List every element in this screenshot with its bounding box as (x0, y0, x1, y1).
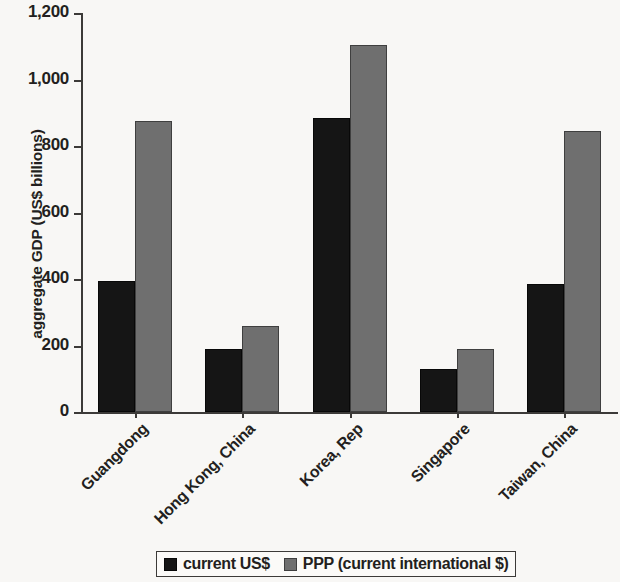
x-axis-tick-mark (242, 412, 244, 418)
y-axis-tick-mark (74, 13, 81, 15)
y-axis-tick-mark (74, 80, 81, 82)
legend-entry-current-usd: current US$ (164, 555, 270, 573)
y-axis-tick-label: 1,200 (5, 2, 69, 22)
y-axis-tick-mark (74, 213, 81, 215)
legend-swatch-icon (164, 558, 177, 571)
x-axis-tick-mark (350, 412, 352, 418)
x-axis-tick-mark (457, 412, 459, 418)
bar-hong-kong-china-current-usd (205, 349, 242, 412)
y-axis-tick-label: 600 (5, 202, 69, 222)
legend-entry-ppp: PPP (current international $) (284, 555, 509, 573)
bar-taiwan-china-current-usd (527, 284, 564, 412)
y-axis-tick-label: 200 (5, 335, 69, 355)
bar-guangdong-current-usd (98, 281, 135, 412)
x-axis-label-singapore: Singapore (407, 420, 473, 486)
y-axis-tick-label: 0 (5, 401, 69, 421)
plot-area: 02004006008001,0001,200 GuangdongHong Ko… (81, 13, 618, 412)
bar-taiwan-china-ppp (564, 131, 601, 412)
bar-singapore-ppp (457, 349, 494, 412)
x-axis-label-hong-kong-china: Hong Kong, China (151, 420, 259, 528)
bar-korea-rep-current-usd (313, 118, 350, 412)
x-axis-label-taiwan-china: Taiwan, China (496, 420, 581, 505)
y-axis-tick-label: 400 (5, 268, 69, 288)
bar-chart-figure: aggregate GDP (US$ billions) 02004006008… (0, 0, 620, 582)
legend-label: PPP (current international $) (303, 555, 509, 573)
y-axis-tick-label: 800 (5, 135, 69, 155)
x-axis-tick-mark (135, 412, 137, 418)
bar-hong-kong-china-ppp (242, 326, 279, 412)
bar-korea-rep-ppp (350, 45, 387, 412)
chart-legend: current US$PPP (current international $) (156, 551, 516, 577)
y-axis-tick-mark (74, 346, 81, 348)
y-axis-tick-mark (74, 279, 81, 281)
legend-swatch-icon (284, 558, 297, 571)
x-axis-label-guangdong: Guangdong (77, 420, 151, 494)
bars-layer (81, 13, 618, 412)
bar-guangdong-ppp (135, 121, 172, 412)
y-axis-tick-mark (74, 412, 81, 414)
y-axis-tick-label: 1,000 (5, 69, 69, 89)
x-axis-tick-mark (564, 412, 566, 418)
bar-singapore-current-usd (420, 369, 457, 412)
legend-label: current US$ (183, 555, 270, 573)
x-axis-label-korea-rep: Korea, Rep (296, 420, 366, 490)
y-axis-tick-mark (74, 146, 81, 148)
